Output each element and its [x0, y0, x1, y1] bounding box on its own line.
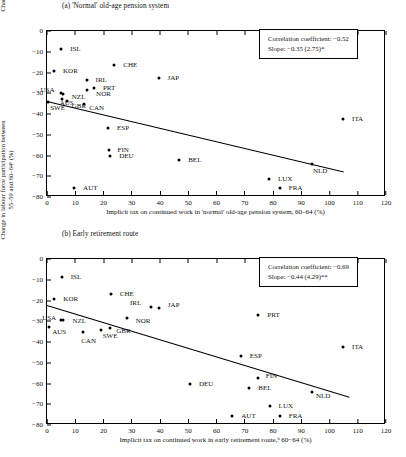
panel-a-point-label-deu: DEU [119, 152, 133, 160]
panel-a-point-label-esp: ESP [117, 124, 129, 132]
panel-b-data-point-isl [60, 276, 63, 279]
panel-a-y-tick-mark [47, 176, 51, 177]
panel-b-y-axis-label-line1: Change in labour force participation bet… [0, 100, 7, 260]
panel-a-x-tick-mark [47, 191, 48, 195]
panel-b-point-label-usa: USA [42, 314, 56, 322]
panel-b-correlation-row: Correlation coefficient: −0.69 [268, 262, 349, 272]
panel-a-data-point-can [83, 103, 86, 106]
panel-a-x-tick-mark [160, 191, 161, 195]
panel-a-correlation-value: −0.52 [333, 35, 349, 42]
panel-a-x-tick-mark-top [386, 31, 387, 35]
panel-b-point-label-esp: ESP [250, 352, 262, 360]
panel-b-point-label-deu: DEU [199, 380, 213, 388]
panel-b-point-label-aus: AUS [52, 328, 66, 336]
panel-a-data-point-prt [92, 86, 95, 89]
panel-b-data-point-bel [248, 387, 251, 390]
panel-b-x-tick-mark-top [160, 259, 161, 263]
panel-a-y-axis-label-line2: 55–59 and 60–64ᵃ (%) [7, 0, 15, 32]
panel-b-x-tick-mark-top [216, 259, 217, 263]
panel-a-x-tick-mark [103, 191, 104, 195]
panel-a-x-tick-10: 10 [72, 195, 79, 207]
panel-b-x-tick-mark [103, 419, 104, 423]
panel-b-y-tick-neg70: −70 [32, 400, 47, 408]
panel-b-point-label-prt: PRT [267, 311, 279, 319]
panel-a-x-axis-label: Implicit tax on continued work in 'norma… [46, 208, 385, 216]
panel-a-title: (a) 'Normal' old-age pension system [62, 2, 169, 10]
panel-b-slope-row: Slope: −0.44 (4.29)** [268, 272, 349, 282]
panel-b-x-tick-mark [188, 419, 189, 423]
panel-a-x-tick-120: 120 [381, 195, 392, 207]
panel-b-point-label-can: CAN [81, 337, 96, 345]
panel-b-point-label-nzl: NZL [72, 317, 86, 325]
panel-b-x-tick-mark-top [188, 259, 189, 263]
panel-a-data-point-lux [268, 177, 271, 180]
panel-a-x-tick-mark [188, 191, 189, 195]
panel-b-x-tick-70: 70 [241, 423, 248, 435]
panel-a-data-point-fra [278, 186, 281, 189]
panel-a-data-point-nzl [61, 93, 64, 96]
panel-a-data-point-deu [109, 155, 112, 158]
panel-b-y-tick-neg60: −60 [32, 380, 47, 388]
panel-b-data-point-nld [310, 391, 313, 394]
panel-b-x-tick-60: 60 [213, 423, 220, 435]
panel-a-y-axis-label: Change in labour force participation bet… [0, 0, 15, 32]
panel-b-x-tick-50: 50 [185, 423, 192, 435]
panel-b-data-point-aut [231, 415, 234, 418]
panel-a-point-label-nzl: NZL [72, 93, 86, 101]
panel-a-data-point-che [113, 64, 116, 67]
panel-a-y-tick-mark [47, 155, 51, 156]
panel-a-statistics-box: Correlation coefficient: −0.52 Slope: −0… [259, 29, 358, 59]
panel-a-point-label-usa: USA [41, 86, 55, 94]
panel-a-data-point-ita [342, 117, 345, 120]
panel-b-y-tick-mark [47, 362, 51, 363]
panel-b-point-label-aut: AUT [241, 412, 255, 420]
panel-a-data-point-isl [60, 48, 63, 51]
panel-a-point-label-nor: NOR [96, 90, 111, 98]
panel-a-correlation-label: Correlation coefficient: [268, 35, 331, 42]
panel-a-point-label-jap: JAP [168, 74, 180, 82]
panel-a-point-label-irl: IRL [96, 76, 107, 84]
panel-b-title: (b) Early retirement route [62, 230, 138, 238]
panel-b-correlation-value: −0.69 [333, 263, 349, 270]
panel-a-x-tick-mark [131, 191, 132, 195]
panel-a-x-tick-40: 40 [157, 195, 164, 207]
panel-b-x-tick-mark [273, 419, 274, 423]
panel-a-x-tick-mark-top [216, 31, 217, 35]
panel-a-y-tick-mark [47, 134, 51, 135]
panel-a-x-tick-mark [216, 191, 217, 195]
panel-b-x-tick-120: 120 [381, 423, 392, 435]
panel-a-x-tick-mark-top [160, 31, 161, 35]
panel-b-x-tick-mark-top [244, 259, 245, 263]
panel-a-x-tick-mark-top [244, 31, 245, 35]
panel-b-data-point-can [82, 331, 85, 334]
panel-a-y-tick-neg10: −10 [32, 48, 47, 56]
panel-b-x-tick-mark [47, 419, 48, 423]
panel-a-x-tick-mark [75, 191, 76, 195]
panel-b-x-tick-mark [357, 419, 358, 423]
panel-a-data-point-irl [85, 78, 88, 81]
panel-a-point-label-swe: SWE [50, 104, 65, 112]
panel-a-point-label-lux: LUX [278, 175, 292, 183]
panel-b-point-label-fin: FIN [266, 372, 277, 380]
panel-a-x-tick-mark-top [47, 31, 48, 35]
panel-b-point-label-jap: JAP [168, 301, 180, 309]
panel-b-data-point-kor [53, 298, 56, 301]
panel-b-x-tick-mark [75, 419, 76, 423]
panel-a-x-tick-80: 80 [270, 195, 277, 207]
panel-a-data-point-aut [73, 186, 76, 189]
panel-a-data-point-gbr [65, 99, 68, 102]
panel-a-point-label-isl: ISL [70, 45, 81, 53]
panel-b-point-label-che: CHE [120, 290, 134, 298]
panel-a-x-tick-0: 0 [45, 195, 49, 207]
panel-b-slope-label: Slope: [268, 273, 285, 280]
panel-a-data-point-nor [86, 88, 89, 91]
panel-b-point-label-swe: SWE [103, 332, 118, 340]
panel-b-data-point-aus [48, 326, 51, 329]
panel-a-data-point-esp [107, 126, 110, 129]
panel-b-point-label-nor: NOR [136, 317, 151, 325]
panel-a-data-point-nld [310, 163, 313, 166]
panel-b-point-label-nld: NLD [316, 392, 330, 400]
panel-b-x-tick-mark-top [75, 259, 76, 263]
panel-b-data-point-deu [188, 383, 191, 386]
panel-b-data-point-ita [342, 345, 345, 348]
